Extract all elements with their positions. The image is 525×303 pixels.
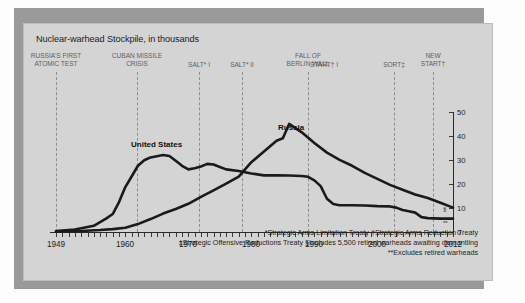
series-label-united-states: United States (131, 140, 182, 149)
series-marker-united-states: ** (443, 220, 448, 226)
series-line-united-states (56, 155, 453, 231)
footnote-1: *Strategic Arms Limitation Treaty †Strat… (78, 228, 478, 238)
screenshot-root: Nuclear-warhead Stockpile, in thousands … (0, 0, 525, 303)
series-marker-russia: § (443, 206, 446, 212)
chart-card: Nuclear-warhead Stockpile, in thousands … (23, 23, 493, 281)
footnote-3: **Excludes retired warheads (78, 248, 478, 258)
series-line-russia (56, 124, 453, 232)
series-label-russia: Russia (278, 123, 304, 132)
footnotes: *Strategic Arms Limitation Treaty †Strat… (78, 228, 478, 258)
footnote-2: ‡Strategic Offensive Reductions Treaty §… (78, 238, 478, 248)
